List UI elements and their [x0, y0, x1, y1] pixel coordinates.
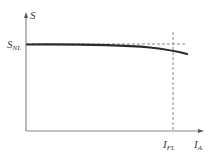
y-axis-label: S [30, 9, 36, 21]
speed-curve [27, 44, 187, 54]
full-load-current-label: IFL [162, 138, 175, 152]
speed-current-diagram: S SNL IFL IA [0, 0, 216, 156]
y-axis-arrow-icon [24, 12, 28, 18]
x-axis-arrow-icon [198, 129, 204, 133]
no-load-speed-label: SNL [7, 38, 21, 52]
x-axis-label: IA [193, 138, 203, 152]
